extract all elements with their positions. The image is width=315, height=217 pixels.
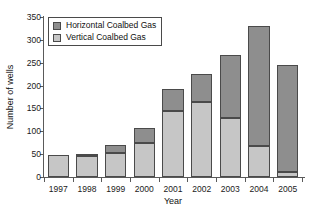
bar-segment-horizontal xyxy=(191,74,212,102)
y-axis-tick-label: 250 xyxy=(27,58,41,67)
legend-swatch-vertical xyxy=(53,34,61,42)
legend-item: Horizontal Coalbed Gas xyxy=(53,21,156,30)
bar-segment-vertical xyxy=(48,155,69,177)
bar-segment-vertical xyxy=(277,172,298,177)
bar-segment-horizontal xyxy=(248,26,269,146)
x-axis-tick-mark xyxy=(73,178,74,182)
bar-2000 xyxy=(134,128,155,177)
bar-2003 xyxy=(220,55,241,177)
x-axis-tick-mark xyxy=(101,178,102,182)
bar-segment-horizontal xyxy=(277,65,298,173)
y-axis-tick-label: 350 xyxy=(27,13,41,22)
x-axis-title: Year xyxy=(44,196,302,206)
bar-2002 xyxy=(191,74,212,177)
bar-1999 xyxy=(105,145,126,177)
legend-item: Vertical Coalbed Gas xyxy=(53,33,156,42)
y-axis-tick-label: 200 xyxy=(27,81,41,90)
bar-segment-vertical xyxy=(248,146,269,177)
legend-label: Horizontal Coalbed Gas xyxy=(66,21,156,30)
bar-2004 xyxy=(248,26,269,177)
x-axis-tick-label: 1999 xyxy=(106,184,125,194)
x-axis-tick-mark xyxy=(130,178,131,182)
legend-label: Vertical Coalbed Gas xyxy=(66,33,146,42)
x-axis-tick-label: 2002 xyxy=(192,184,211,194)
x-axis-tick-label: 2003 xyxy=(221,184,240,194)
bar-segment-vertical xyxy=(162,111,183,177)
bar-segment-horizontal xyxy=(162,89,183,111)
x-axis-tick-label: 1998 xyxy=(78,184,97,194)
x-axis-tick-label: 2005 xyxy=(278,184,297,194)
bar-1997 xyxy=(48,155,69,177)
bar-segment-vertical xyxy=(134,143,155,177)
x-axis-tick-mark xyxy=(159,178,160,182)
bar-segment-horizontal xyxy=(76,154,97,156)
bar-2001 xyxy=(162,89,183,177)
bar-segment-horizontal xyxy=(134,128,155,143)
x-axis-tick-mark xyxy=(216,178,217,182)
bar-segment-vertical xyxy=(191,102,212,177)
x-axis-tick-label: 2000 xyxy=(135,184,154,194)
x-axis-tick-mark xyxy=(273,178,274,182)
y-axis-title: Number of wells xyxy=(5,49,15,145)
x-axis-tick-mark xyxy=(44,178,45,182)
legend-swatch-horizontal xyxy=(53,22,61,30)
bar-segment-vertical xyxy=(105,153,126,177)
coalbed-gas-wells-chart: Number of wells 050100150200250300350 19… xyxy=(0,0,315,217)
x-axis-tick-label: 2004 xyxy=(250,184,269,194)
bar-1998 xyxy=(76,154,97,177)
x-axis-tick-label: 1997 xyxy=(49,184,68,194)
bar-segment-horizontal xyxy=(105,145,126,153)
x-axis-tick-mark xyxy=(245,178,246,182)
x-axis-tick-mark xyxy=(302,178,303,182)
y-axis-title-holder: Number of wells xyxy=(0,17,20,177)
bar-segment-horizontal xyxy=(220,55,241,118)
bar-segment-vertical xyxy=(220,118,241,177)
x-axis-tick-mark xyxy=(187,178,188,182)
y-axis-tick-label: 0 xyxy=(36,173,41,182)
bar-2005 xyxy=(277,65,298,177)
y-axis-tick-label: 100 xyxy=(27,127,41,136)
bar-segment-vertical xyxy=(76,156,97,177)
y-axis-tick-label: 50 xyxy=(32,150,41,159)
x-axis-tick-label: 2001 xyxy=(164,184,183,194)
y-axis-tick-label: 150 xyxy=(27,104,41,113)
y-axis-tick-label: 300 xyxy=(27,36,41,45)
chart-legend: Horizontal Coalbed GasVertical Coalbed G… xyxy=(48,17,162,46)
